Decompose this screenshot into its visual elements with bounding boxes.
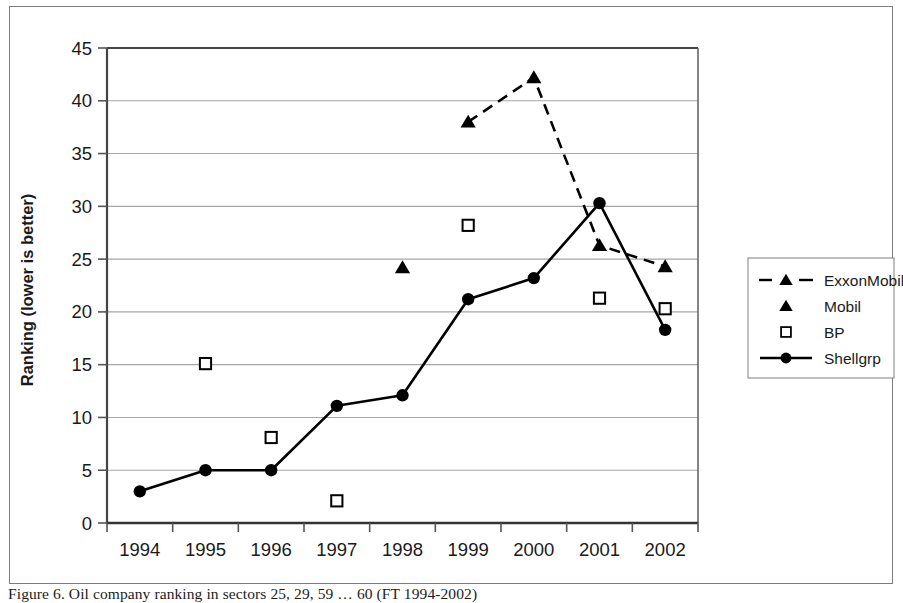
x-tick-marks <box>107 523 698 532</box>
y-tick-label: 30 <box>71 196 92 217</box>
y-tick-label: 10 <box>71 407 92 428</box>
data-point-shellgrp-2002 <box>659 324 671 336</box>
y-tick-label: 0 <box>82 513 92 534</box>
y-tick-label: 25 <box>71 249 92 270</box>
data-point-bp-2001 <box>594 293 605 304</box>
y-tick-label: 45 <box>71 38 92 59</box>
y-tick-marks <box>98 48 107 523</box>
x-tick-label: 1996 <box>251 539 292 560</box>
data-point-exxonmobil-1999 <box>461 115 476 128</box>
series-markers-group <box>134 70 673 506</box>
y-tick-label: 40 <box>71 90 92 111</box>
legend-marker-circle-filled <box>781 353 792 364</box>
x-tick-label: 1998 <box>382 539 423 560</box>
x-tick-labels: 199419951996199719981999200020012002 <box>119 539 685 560</box>
data-point-shellgrp-1996 <box>265 464 277 476</box>
x-tick-label: 1997 <box>316 539 357 560</box>
x-tick-label: 1995 <box>185 539 226 560</box>
data-point-shellgrp-1994 <box>134 485 146 497</box>
data-point-bp-1995 <box>200 358 211 369</box>
data-point-shellgrp-2000 <box>528 272 540 284</box>
x-tick-label: 1994 <box>119 539 160 560</box>
y-tick-label: 20 <box>71 301 92 322</box>
legend-label: Shellgrp <box>824 350 881 367</box>
plot-frame <box>107 48 698 523</box>
y-tick-label: 15 <box>71 354 92 375</box>
data-point-shellgrp-2001 <box>593 197 605 209</box>
x-tick-label: 2001 <box>579 539 620 560</box>
data-point-bp-1996 <box>266 432 277 443</box>
series-line-shellgrp <box>140 203 665 491</box>
series-lines-group <box>140 78 665 492</box>
data-point-shellgrp-1999 <box>462 293 474 305</box>
data-point-mobil-1998 <box>395 260 410 273</box>
data-point-bp-1997 <box>331 495 342 506</box>
y-axis-title: Ranking (lower is better) <box>18 194 36 387</box>
data-point-bp-2002 <box>660 303 671 314</box>
data-point-shellgrp-1997 <box>331 400 343 412</box>
gridlines-group <box>107 101 698 470</box>
data-point-shellgrp-1998 <box>396 389 408 401</box>
y-tick-labels: 051015202530354045 <box>71 38 92 534</box>
y-tick-label: 5 <box>82 460 92 481</box>
data-point-exxonmobil-2000 <box>526 70 541 83</box>
figure-caption: Figure 6. Oil company ranking in sectors… <box>8 585 888 603</box>
series-line-exxonmobil <box>468 78 665 267</box>
legend-label: BP <box>824 324 845 341</box>
x-tick-label: 1999 <box>448 539 489 560</box>
data-point-bp-1999 <box>463 220 474 231</box>
legend-marker-square-open <box>781 327 791 337</box>
legend-label: Mobil <box>824 298 861 315</box>
data-point-exxonmobil-2001 <box>592 238 607 251</box>
y-tick-label: 35 <box>71 143 92 164</box>
data-point-exxonmobil-2002 <box>658 259 673 272</box>
x-tick-label: 2000 <box>513 539 554 560</box>
data-point-shellgrp-1995 <box>199 464 211 476</box>
x-tick-label: 2002 <box>645 539 686 560</box>
legend-label: ExxonMobil <box>824 272 903 289</box>
legend: ExxonMobilMobilBPShellgrp <box>748 258 903 378</box>
